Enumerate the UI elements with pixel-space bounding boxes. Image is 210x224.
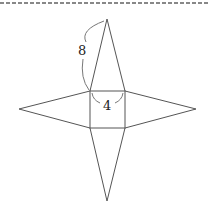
slant-edge-arc xyxy=(85,21,104,42)
top-triangle xyxy=(90,19,125,91)
right-triangle xyxy=(125,91,196,128)
diagram-svg: 8 4 xyxy=(0,0,210,224)
slant-edge-label: 8 xyxy=(78,43,86,58)
left-triangle xyxy=(19,91,90,128)
base-edge-label: 4 xyxy=(103,98,111,113)
pyramid-net-diagram: 8 4 xyxy=(0,0,210,224)
base-edge-arc-right xyxy=(115,93,123,103)
bottom-triangle xyxy=(90,128,125,201)
slant-edge-arc-lower xyxy=(82,59,89,90)
base-edge-arc-left xyxy=(92,93,100,103)
